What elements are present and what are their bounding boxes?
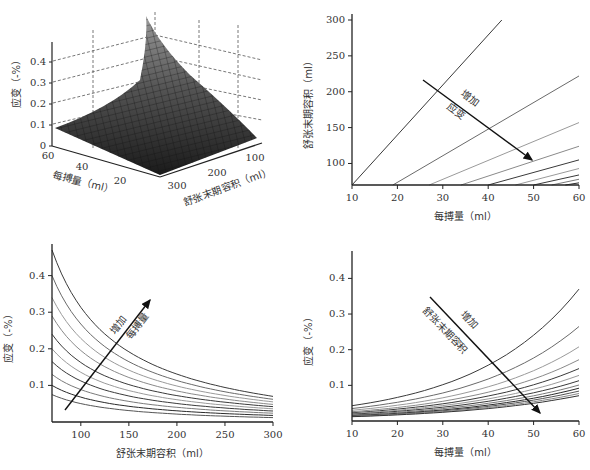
- x-tick: 10: [346, 428, 359, 439]
- y-tick: 250: [326, 50, 345, 61]
- strain-curve: [352, 347, 579, 411]
- x-tick: 10: [346, 192, 359, 203]
- y-tick: 100: [326, 157, 345, 168]
- y-tick: 0.2: [329, 344, 345, 355]
- x-tick: 20: [391, 428, 404, 439]
- x-tick: 60: [42, 150, 55, 161]
- y-tick: 0.4: [329, 272, 345, 283]
- surface-3d-panel: 00.10.20.30.4 604020 300200100 应变（-%） 每搏…: [0, 0, 300, 235]
- strain-vs-sv-panel: 1020304050600.10.20.30.4每搏量（ml）应变（-%）增加舒…: [300, 235, 590, 470]
- y-tick: 0.1: [29, 379, 45, 390]
- plot-lines: [52, 250, 273, 418]
- iso-line: [352, 20, 502, 185]
- annotation-line2: 每搏量: [123, 310, 151, 341]
- iso-line: [393, 76, 579, 185]
- y-axis-label: 舒张末期容积（ml）: [302, 56, 314, 149]
- x-axis-label: 舒张末期容积（ml）: [116, 447, 209, 459]
- strain-vs-sv-chart: 1020304050600.10.20.30.4每搏量（ml）应变（-%）增加舒…: [300, 235, 590, 470]
- y-tick: 0.1: [329, 379, 345, 390]
- y-tick: 200: [207, 167, 226, 178]
- x-tick: 30: [436, 428, 449, 439]
- x-tick: 20: [114, 175, 127, 186]
- strain-curve: [52, 385, 273, 415]
- x-tick: 40: [76, 161, 89, 172]
- x-tick: 20: [391, 192, 404, 203]
- strain-curve: [52, 349, 273, 409]
- y-axis-label: 应变（-%）: [302, 312, 314, 365]
- y-tick: 200: [326, 86, 345, 97]
- trend-arrow: [423, 80, 532, 160]
- z-tick: 0.1: [30, 119, 46, 130]
- x-tick: 150: [119, 429, 138, 440]
- x-tick: 40: [482, 192, 495, 203]
- x-tick: 50: [527, 428, 540, 439]
- x-tick: 60: [573, 428, 586, 439]
- y-tick: 0.4: [29, 270, 45, 281]
- surface-mesh: [55, 16, 257, 175]
- x-tick: 50: [527, 192, 540, 203]
- x-tick: 300: [263, 429, 282, 440]
- z-tick-labels: 00.10.20.30.4: [30, 56, 52, 151]
- strain-vs-edv-chart: 1001502002503000.10.20.30.4舒张末期容积（ml）应变（…: [0, 235, 300, 470]
- y-tick: 100: [245, 152, 264, 163]
- trend-arrow: [430, 297, 540, 413]
- z-tick: 0.4: [30, 56, 46, 67]
- annotation-line1: 增加: [459, 87, 482, 109]
- edv-vs-sv-chart: 102030405060100150200250300每搏量（ml）舒张末期容积…: [300, 0, 590, 235]
- y-tick: 150: [326, 122, 345, 133]
- y-tick: 0.2: [29, 343, 45, 354]
- y-axis-label: 舒张末期容积（ml）: [182, 165, 273, 208]
- strain-curve: [52, 276, 273, 400]
- annotation-line2: 应变: [445, 100, 468, 122]
- y-tick: 0.3: [29, 306, 45, 317]
- y-tick: 300: [167, 180, 186, 191]
- strain-curve: [52, 334, 273, 406]
- x-tick: 30: [436, 192, 449, 203]
- strain-curve: [52, 374, 273, 413]
- x-tick: 250: [215, 429, 234, 440]
- x-tick: 200: [167, 429, 186, 440]
- edv-vs-sv-panel: 102030405060100150200250300每搏量（ml）舒张末期容积…: [300, 0, 590, 235]
- z-tick: 0.2: [30, 98, 46, 109]
- plot-lines: [352, 20, 579, 185]
- plot-lines: [352, 289, 579, 417]
- y-tick: 0.3: [329, 308, 345, 319]
- x-tick: 100: [71, 429, 90, 440]
- strain-vs-edv-panel: 1001502002503000.10.20.30.4舒张末期容积（ml）应变（…: [0, 235, 300, 470]
- x-tick: 60: [573, 192, 586, 203]
- x-axis-label: 每搏量（ml）: [434, 210, 497, 222]
- z-axis-label: 应变（-%）: [10, 55, 22, 108]
- z-tick: 0.3: [30, 77, 46, 88]
- annotation-line1: 增加: [459, 308, 481, 331]
- surface-3d-chart: 00.10.20.30.4 604020 300200100 应变（-%） 每搏…: [0, 0, 300, 235]
- y-axis-label: 应变（-%）: [2, 309, 14, 362]
- x-tick: 40: [482, 428, 495, 439]
- x-axis-label: 每搏量（ml）: [52, 168, 116, 195]
- x-axis-label: 每搏量（ml）: [434, 446, 497, 458]
- y-tick: 300: [326, 14, 345, 25]
